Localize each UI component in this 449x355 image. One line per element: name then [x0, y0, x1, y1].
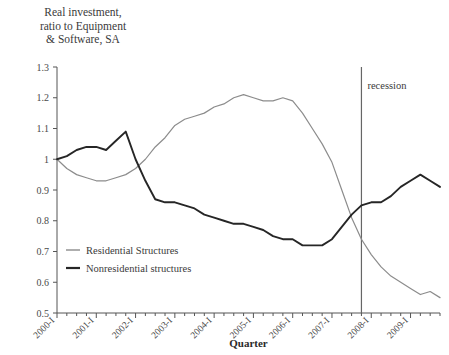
y-tick-label: 1.3: [37, 62, 50, 73]
x-tick-label-group: 2009-I: [385, 315, 410, 340]
chart-container: Real investment, ratio to Equipment & So…: [0, 0, 449, 355]
y-tick-label: 1.2: [37, 92, 50, 103]
x-tick-label-group: 2006-I: [267, 315, 292, 340]
x-tick-label-group: 2002-I: [110, 315, 135, 340]
x-tick-label: 2009-I: [385, 315, 410, 340]
x-tick-label-group: 2000-I: [31, 315, 56, 340]
x-tick-label: 2002-I: [110, 315, 135, 340]
x-tick-label: 2008-I: [346, 315, 371, 340]
recession-label: recession: [367, 80, 407, 91]
x-tick-label: 2007-I: [306, 315, 331, 340]
chart-plot-svg: 1.31.21.110.90.80.70.60.52000-I2001-I200…: [0, 0, 449, 355]
series-line-2: [57, 132, 440, 246]
legend-label-1: Residential Structures: [86, 245, 178, 256]
legend-label-2: Nonresidential structures: [86, 263, 191, 274]
x-tick-label-group: 2008-I: [346, 315, 371, 340]
x-tick-label: 2006-I: [267, 315, 292, 340]
x-axis-title: Quarter: [229, 337, 268, 349]
y-tick-label: 0.8: [37, 215, 50, 226]
x-tick-label-group: 2004-I: [189, 315, 214, 340]
y-tick-label: 1.1: [37, 123, 50, 134]
y-tick-label: 0.7: [37, 246, 50, 257]
x-tick-label-group: 2001-I: [71, 315, 96, 340]
x-tick-label: 2001-I: [71, 315, 96, 340]
x-tick-label-group: 2003-I: [149, 315, 174, 340]
x-tick-label: 2000-I: [31, 315, 56, 340]
y-tick-label: 0.6: [37, 277, 50, 288]
y-tick-label: 0.9: [37, 185, 50, 196]
x-tick-label: 2003-I: [149, 315, 174, 340]
y-tick-label: 1: [44, 154, 49, 165]
x-tick-label-group: 2007-I: [306, 315, 331, 340]
x-tick-label: 2004-I: [189, 315, 214, 340]
